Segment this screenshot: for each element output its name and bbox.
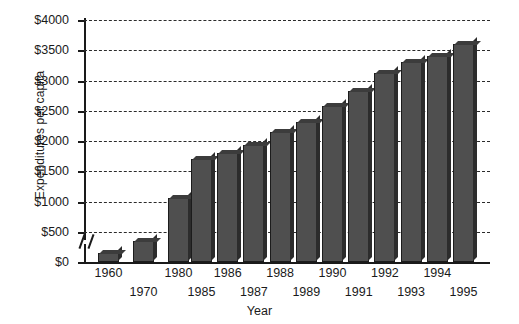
y-axis-tick: $1500: [78, 171, 84, 173]
bar: [270, 132, 291, 262]
gridline: [84, 20, 490, 21]
x-axis-line: [84, 262, 490, 264]
y-axis-tick: $2500: [78, 111, 84, 113]
y-axis-tick: $2000: [78, 141, 84, 143]
y-axis-tick-label: $2500: [0, 104, 69, 118]
bar: [168, 198, 189, 262]
bar: [401, 62, 422, 262]
y-axis-tick-label: $4000: [0, 13, 69, 27]
y-axis-tick-label: $500: [0, 225, 69, 239]
y-axis-tick-label: $1500: [0, 164, 69, 178]
bar: [217, 153, 238, 262]
bar: [133, 241, 154, 262]
x-axis-tick-label: 1994: [423, 266, 451, 280]
axis-break-marker: [78, 234, 98, 250]
y-axis-tick: $4000: [78, 20, 84, 22]
x-axis-tick-label: 1988: [266, 266, 294, 280]
chart-figure: Expenditures per capita $0$500$1000$1500…: [0, 0, 519, 324]
x-axis-tick-label: 1991: [345, 285, 373, 299]
bar: [427, 56, 448, 262]
x-axis-tick-label: 1980: [165, 266, 193, 280]
bar: [374, 73, 395, 262]
y-axis-tick: $0: [78, 262, 84, 264]
y-axis-tick-label: $0: [0, 255, 69, 269]
x-axis-tick-label: 1992: [371, 266, 399, 280]
bar: [453, 44, 474, 262]
y-axis-tick-label: $3500: [0, 43, 69, 57]
bar: [98, 253, 119, 262]
x-axis-tick-label: 1985: [188, 285, 216, 299]
bar: [348, 91, 369, 262]
x-axis-tick-label: 1970: [130, 285, 158, 299]
plot-area: $0$500$1000$1500$2000$2500$3000$3500$400…: [84, 20, 490, 262]
y-axis-tick-label: $2000: [0, 134, 69, 148]
y-axis-tick: $3000: [78, 81, 84, 83]
x-axis-tick-label: 1989: [292, 285, 320, 299]
y-axis-tick-label: $1000: [0, 195, 69, 209]
y-axis-tick: $1000: [78, 202, 84, 204]
bar: [191, 159, 212, 262]
bar: [296, 122, 317, 262]
x-axis-tick-label: 1986: [214, 266, 242, 280]
gridline: [84, 50, 490, 51]
x-axis-tick-label: 1990: [319, 266, 347, 280]
bar: [322, 106, 343, 262]
bar: [243, 145, 264, 262]
x-axis-tick-label: 1993: [397, 285, 425, 299]
y-axis-tick: $3500: [78, 50, 84, 52]
x-axis-tick-label: 1995: [450, 285, 478, 299]
x-axis-tick-label: 1960: [95, 266, 123, 280]
y-axis-tick-label: $3000: [0, 74, 69, 88]
x-axis-tick-label: 1987: [240, 285, 268, 299]
x-axis-title: Year: [0, 304, 519, 318]
